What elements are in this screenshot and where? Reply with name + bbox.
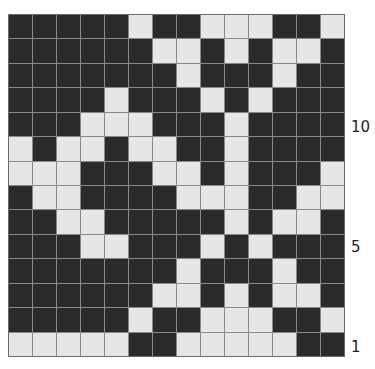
chart-cell: [249, 333, 272, 356]
chart-cell: [81, 308, 104, 331]
chart-cell: [297, 284, 320, 307]
chart-cell: [33, 39, 56, 62]
chart-cell: [201, 210, 224, 233]
chart-cell: [297, 39, 320, 62]
chart-cell: [201, 113, 224, 136]
chart-cell: [153, 64, 176, 87]
chart-cell: [129, 64, 152, 87]
chart-cell: [9, 64, 32, 87]
chart-cell: [225, 284, 248, 307]
chart-cell: [105, 259, 128, 282]
chart-cell: [201, 259, 224, 282]
chart-cell: [273, 88, 296, 111]
chart-cell: [9, 333, 32, 356]
chart-cell: [57, 39, 80, 62]
chart-cell: [225, 64, 248, 87]
chart-cell: [105, 210, 128, 233]
chart-cell: [201, 15, 224, 38]
chart-cell: [129, 88, 152, 111]
chart-cell: [297, 15, 320, 38]
chart-cell: [105, 333, 128, 356]
chart-cell: [297, 259, 320, 282]
chart-cell: [9, 308, 32, 331]
chart-cell: [321, 333, 344, 356]
chart-cell: [81, 88, 104, 111]
chart-cell: [249, 39, 272, 62]
chart-cell: [9, 210, 32, 233]
chart-cell: [321, 308, 344, 331]
chart-cell: [225, 210, 248, 233]
chart-cell: [9, 259, 32, 282]
chart-cell: [81, 235, 104, 258]
chart-cell: [321, 113, 344, 136]
chart-cell: [57, 113, 80, 136]
chart-cell: [249, 88, 272, 111]
chart-cell: [153, 235, 176, 258]
chart-cell: [201, 39, 224, 62]
chart-cell: [273, 113, 296, 136]
chart-cell: [273, 284, 296, 307]
chart-cell: [9, 186, 32, 209]
chart-cell: [249, 210, 272, 233]
chart-cell: [249, 186, 272, 209]
chart-cell: [177, 64, 200, 87]
chart-cell: [153, 39, 176, 62]
chart-cell: [33, 137, 56, 160]
chart-cell: [177, 162, 200, 185]
chart-cell: [33, 333, 56, 356]
chart-cell: [273, 210, 296, 233]
chart-cell: [153, 162, 176, 185]
chart-cell: [297, 308, 320, 331]
chart-cell: [33, 308, 56, 331]
chart-cell: [225, 259, 248, 282]
chart-cell: [201, 186, 224, 209]
chart-cell: [225, 308, 248, 331]
chart-cell: [273, 333, 296, 356]
chart-cell: [225, 333, 248, 356]
chart-cell: [81, 15, 104, 38]
chart-cell: [33, 113, 56, 136]
chart-cell: [177, 235, 200, 258]
chart-cell: [81, 186, 104, 209]
chart-cell: [297, 210, 320, 233]
chart-cell: [57, 235, 80, 258]
chart-cell: [9, 284, 32, 307]
chart-cell: [249, 15, 272, 38]
chart-cell: [225, 235, 248, 258]
chart-cell: [33, 15, 56, 38]
chart-cell: [321, 186, 344, 209]
chart-cell: [297, 64, 320, 87]
chart-cell: [105, 64, 128, 87]
chart-cell: [81, 113, 104, 136]
chart-cell: [225, 186, 248, 209]
chart-cell: [153, 210, 176, 233]
chart-cell: [81, 210, 104, 233]
chart-cell: [249, 137, 272, 160]
chart-cell: [249, 284, 272, 307]
chart-cell: [57, 64, 80, 87]
chart-cell: [153, 308, 176, 331]
chart-cell: [273, 308, 296, 331]
chart-cell: [177, 88, 200, 111]
chart-cell: [33, 88, 56, 111]
chart-cell: [321, 39, 344, 62]
chart-cell: [249, 235, 272, 258]
chart-cell: [153, 284, 176, 307]
chart-cell: [321, 235, 344, 258]
chart-cell: [105, 88, 128, 111]
chart-cell: [33, 162, 56, 185]
chart-cell: [201, 284, 224, 307]
chart-cell: [81, 162, 104, 185]
chart-cell: [57, 210, 80, 233]
chart-cell: [297, 162, 320, 185]
chart-cell: [81, 137, 104, 160]
chart-cell: [249, 162, 272, 185]
chart-cell: [105, 137, 128, 160]
chart-cell: [321, 15, 344, 38]
chart-cell: [105, 284, 128, 307]
row-label-5: 5: [351, 240, 361, 255]
chart-cell: [33, 210, 56, 233]
chart-cell: [129, 210, 152, 233]
chart-cell: [177, 113, 200, 136]
chart-cell: [273, 64, 296, 87]
